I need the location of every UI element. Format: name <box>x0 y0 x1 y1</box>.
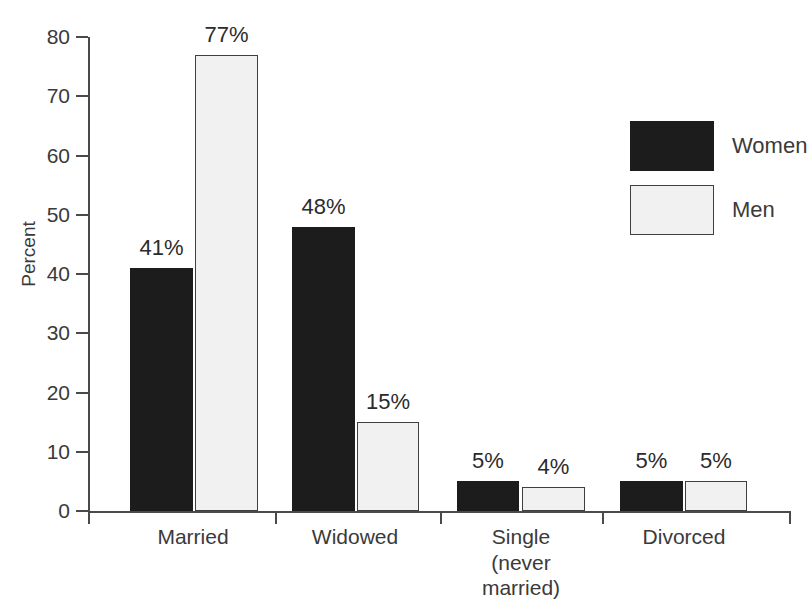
y-tick-label-20: 20 <box>26 382 70 403</box>
y-tick-80 <box>76 36 88 38</box>
y-tick-50 <box>76 214 88 216</box>
bar-divorced-women <box>620 481 683 511</box>
y-tick-label-30: 30 <box>26 322 70 343</box>
y-tick-label-60: 60 <box>26 145 70 166</box>
bar-single-women <box>457 481 519 511</box>
bar-value-widowed-women: 48% <box>272 196 375 218</box>
category-label-widowed: Widowed <box>265 524 445 550</box>
y-tick-label-50: 50 <box>26 204 70 225</box>
x-tick-0 <box>88 511 90 524</box>
y-tick-10 <box>76 451 88 453</box>
x-tick-1 <box>275 511 277 524</box>
x-axis-line <box>88 511 790 513</box>
category-label-divorced: Divorced <box>594 524 774 550</box>
category-label-married: Married <box>103 524 283 550</box>
x-tick-3 <box>602 511 604 524</box>
bar-value-married-men: 77% <box>175 24 278 46</box>
y-tick-40 <box>76 273 88 275</box>
legend-swatch-women <box>630 121 714 171</box>
bar-widowed-men <box>357 422 419 511</box>
legend-item-men: Men <box>630 185 775 235</box>
legend-label-women: Women <box>732 135 807 157</box>
y-tick-label-40: 40 <box>26 263 70 284</box>
y-tick-label-80: 80 <box>26 26 70 47</box>
y-tick-70 <box>76 95 88 97</box>
bar-value-single-men: 4% <box>502 456 605 478</box>
bar-married-women <box>130 268 193 511</box>
y-tick-30 <box>76 332 88 334</box>
legend-label-men: Men <box>732 199 775 221</box>
bar-married-men <box>195 55 258 511</box>
x-tick-2 <box>440 511 442 524</box>
legend-item-women: Women <box>630 121 807 171</box>
category-label-single: Single (never married) <box>431 524 611 601</box>
y-tick-60 <box>76 155 88 157</box>
x-tick-4 <box>789 511 791 524</box>
bar-divorced-men <box>685 481 747 511</box>
y-axis-line <box>88 37 90 513</box>
bar-value-divorced-men: 5% <box>665 450 767 472</box>
y-tick-0 <box>76 510 88 512</box>
bar-single-men <box>522 487 585 511</box>
y-tick-label-70: 70 <box>26 85 70 106</box>
bar-value-widowed-men: 15% <box>337 391 439 413</box>
y-tick-label-0: 0 <box>26 500 70 521</box>
bar-chart: Percent 01020304050607080 41%77%48%15%5%… <box>0 0 811 615</box>
bar-widowed-women <box>292 227 355 511</box>
legend-swatch-men <box>630 185 714 235</box>
y-tick-20 <box>76 392 88 394</box>
y-tick-label-10: 10 <box>26 441 70 462</box>
